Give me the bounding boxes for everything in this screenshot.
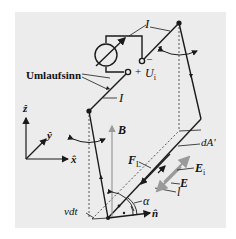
label-current-bottom: l (177, 186, 180, 198)
umlaufsinn-leaders (82, 74, 110, 89)
label-field-e: E (180, 177, 188, 189)
diagram-canvas: I Umlaufsinn + – Ui I ẑ ŷ x̂ B FL dA' Ei… (0, 0, 236, 239)
label-velocity: vdt (64, 206, 77, 217)
label-voltage: Ui (145, 67, 156, 82)
angle-dot-2 (123, 212, 125, 214)
label-axis-z: ẑ (23, 103, 27, 114)
label-sense-of-rotation: Umlaufsinn (26, 70, 81, 81)
diagram-graphics (0, 0, 236, 239)
label-voltage-plus: + (135, 66, 141, 77)
angle-dot-1 (118, 205, 121, 208)
label-current-top: I (145, 17, 149, 30)
label-normal: n̂ (152, 208, 158, 219)
label-field-b: B (118, 124, 126, 136)
label-angle: α (143, 195, 149, 207)
label-axis-y: ŷ (47, 130, 52, 141)
alpha-leader (134, 201, 142, 203)
vertex-left (86, 108, 91, 113)
label-voltage-minus: – (147, 54, 152, 64)
label-axis-x: x̂ (71, 154, 77, 165)
label-area: dA' (201, 137, 216, 148)
label-force: FL (128, 154, 141, 169)
label-current-left: I (119, 91, 123, 104)
vertex-top (176, 20, 181, 25)
normal-vector-arrow (108, 213, 150, 218)
label-induced-field: Ei (195, 162, 205, 177)
area-leader (178, 144, 200, 146)
vdt-leader (86, 213, 94, 218)
